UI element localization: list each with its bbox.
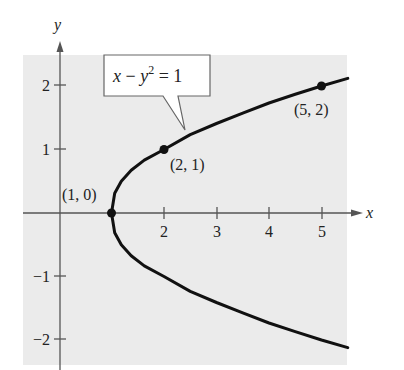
point-1-0 bbox=[107, 209, 116, 218]
y-tick-label: −1 bbox=[33, 268, 50, 285]
y-tick-label: 1 bbox=[42, 141, 50, 158]
parabola-graph: x y 2 3 4 5 2 1 −1 −2 (1, 0) (2, 1) (5, … bbox=[0, 0, 404, 370]
point-label-1-0: (1, 0) bbox=[62, 186, 97, 204]
y-tick-label: 2 bbox=[42, 77, 50, 94]
x-axis-arrow-icon bbox=[351, 210, 363, 217]
equation-text: x − y2 = 1 bbox=[112, 63, 182, 86]
point-label-2-1: (2, 1) bbox=[170, 156, 205, 174]
y-tick-label: −2 bbox=[33, 331, 50, 348]
x-tick-label: 4 bbox=[265, 223, 273, 240]
x-tick-label: 5 bbox=[318, 223, 326, 240]
x-axis-label: x bbox=[365, 204, 373, 221]
point-label-5-2: (5, 2) bbox=[294, 101, 329, 119]
point-2-1 bbox=[160, 145, 169, 154]
point-5-2 bbox=[317, 82, 326, 91]
x-tick-label: 3 bbox=[213, 223, 221, 240]
x-tick-label: 2 bbox=[160, 223, 168, 240]
y-axis-arrow-icon bbox=[57, 41, 64, 52]
y-axis-label: y bbox=[52, 16, 62, 34]
